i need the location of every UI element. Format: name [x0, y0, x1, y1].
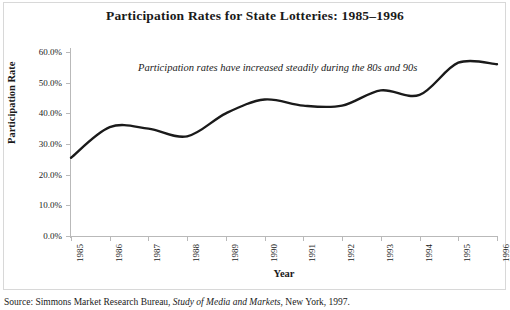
source-publication-title: Study of Media and Markets — [173, 297, 281, 307]
source-note: Source: Simmons Market Research Bureau, … — [4, 297, 508, 307]
participation-rate-line — [71, 61, 497, 158]
chart-figure: Participation Rates for State Lotteries:… — [0, 0, 510, 310]
chart-annotation: Participation rates have increased stead… — [138, 62, 417, 73]
source-prefix: Source: Simmons Market Research Bureau, — [4, 297, 170, 307]
source-suffix: , New York, 1997. — [281, 297, 350, 307]
series-line-chart — [0, 0, 510, 310]
